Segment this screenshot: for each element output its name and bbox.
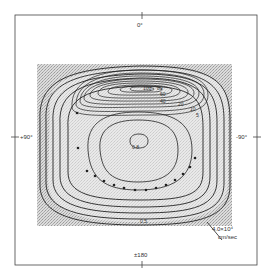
contour-label: 5 bbox=[196, 113, 199, 118]
contour-label-center: 0.8 bbox=[132, 145, 139, 150]
contour-label: 20 bbox=[178, 102, 184, 107]
axis-label-left: +90° bbox=[20, 134, 33, 140]
contour-label: 0.5 bbox=[140, 219, 147, 224]
axis-label-top: 0° bbox=[137, 22, 143, 28]
axis-label-right: -90° bbox=[236, 134, 247, 140]
contour-label: 60 bbox=[160, 92, 166, 97]
contour-label: 40 bbox=[160, 99, 166, 104]
scale-value: 4.0×10⁴ bbox=[212, 226, 233, 232]
axis-label-bottom: ±180 bbox=[134, 252, 147, 258]
scale-unit: cm/sec bbox=[218, 234, 237, 240]
contour-label: 100 bbox=[143, 86, 151, 91]
contour-label: 10 bbox=[190, 107, 196, 112]
